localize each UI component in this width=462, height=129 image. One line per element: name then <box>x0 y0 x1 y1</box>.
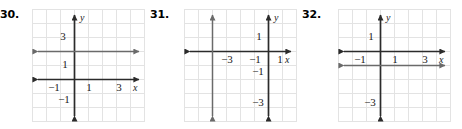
x-tick-label-neg1: −1 <box>249 53 261 65</box>
x-tick-label-neg3: −3 <box>221 53 233 65</box>
x-axis-label: x <box>284 54 290 65</box>
problem-number-31: 31. <box>150 8 169 21</box>
y-tick-label-neg3: −3 <box>364 96 376 108</box>
x-tick-label-3: 3 <box>116 81 122 93</box>
x-tick-label-1: 1 <box>392 53 398 65</box>
y-tick-label-neg1: −1 <box>252 65 264 77</box>
y-tick-label-1: 1 <box>368 30 374 42</box>
y-tick-label-1: 1 <box>256 30 262 42</box>
x-tick-label-3: 3 <box>422 53 428 65</box>
y-tick-label-neg1: −1 <box>58 93 70 105</box>
y-tick-label-3: 3 <box>60 30 66 42</box>
x-tick-label-1: 1 <box>86 81 92 93</box>
graph-svg-31: y x 1 −1 −3 −3 −1 1 <box>184 9 297 122</box>
problem-31: 31. <box>150 0 302 129</box>
problem-32: 32. <box>302 0 462 129</box>
x-tick-label-neg1: −1 <box>48 81 60 93</box>
worksheet-graphs-row: 30. <box>0 0 462 129</box>
y-axis-label: y <box>273 12 279 23</box>
problem-number-30: 30. <box>0 8 19 21</box>
x-tick-label-1: 1 <box>277 53 283 65</box>
coordinate-graph-31: y x 1 −1 −3 −3 −1 1 <box>184 9 297 122</box>
coordinate-graph-30: y x 3 1 −1 −1 1 3 <box>32 9 145 122</box>
x-axis-label: x <box>438 54 444 65</box>
problem-30: 30. <box>0 0 150 129</box>
y-axis-label: y <box>79 12 85 23</box>
y-axis-label: y <box>385 12 391 23</box>
x-axis-label: x <box>132 82 138 93</box>
problem-number-32: 32. <box>302 8 321 21</box>
coordinate-graph-32: y x 1 −3 −1 1 3 <box>338 9 451 122</box>
y-tick-label-1: 1 <box>62 58 68 70</box>
graph-svg-30: y x 3 1 −1 −1 1 3 <box>32 9 145 122</box>
graph-svg-32: y x 1 −3 −1 1 3 <box>338 9 451 122</box>
x-tick-label-neg1: −1 <box>354 53 366 65</box>
y-tick-label-neg3: −3 <box>252 96 264 108</box>
